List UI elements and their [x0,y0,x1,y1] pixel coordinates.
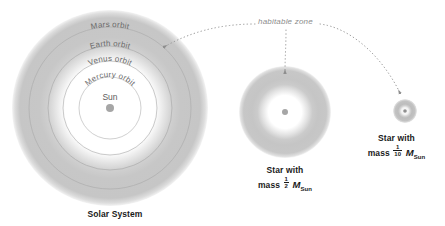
caption-tenth-mass-prefix: mass [368,148,390,158]
caption-half-mass-symbol: MSun [292,179,312,190]
leader-line-to-tenth-mass-star [320,24,400,93]
tenth-mass-star-dot [403,109,407,113]
caption-half-mass-prefix: mass [258,180,280,190]
mass-subscript: Sun [414,154,426,160]
diagram-graphics: Mars orbit Earth orbit Venus orbit Mercu… [0,0,445,226]
habitable-zone-label: habitable zone [258,17,313,26]
half-mass-star-graphic [239,66,331,158]
half-mass-star-dot [282,109,288,115]
caption-half-mass-fraction: 1 2 [284,176,289,189]
fraction-denominator: 2 [284,182,289,189]
caption-half-mass-line1: Star with [230,165,340,176]
tenth-mass-star-graphic [393,99,417,123]
caption-solar-system: Solar System [40,209,190,220]
caption-tenth-mass-fraction: 1 10 [393,144,402,157]
caption-tenth-mass-line2: mass 1 10 MSun [348,144,445,163]
fraction-denominator: 10 [393,150,402,157]
caption-tenth-mass-symbol: MSun [406,147,426,158]
mass-symbol: M [406,147,414,158]
caption-half-mass-line2: mass 1 2 MSun [230,176,340,195]
mass-subscript: Sun [300,186,312,192]
caption-tenth-mass-star: Star with mass 1 10 MSun [348,133,445,163]
solar-system-graphic: Mars orbit Earth orbit Venus orbit Mercu… [12,10,208,206]
sun-label: Sun [102,92,117,102]
caption-half-mass-star: Star with mass 1 2 MSun [230,165,340,195]
caption-solar-system-text: Solar System [87,209,142,219]
sun-dot [106,104,114,112]
figure-canvas: Mars orbit Earth orbit Venus orbit Mercu… [0,0,445,226]
caption-tenth-mass-line1: Star with [348,133,445,144]
